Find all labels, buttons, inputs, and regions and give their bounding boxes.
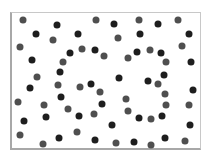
dot [50, 37, 57, 44]
dot [17, 132, 24, 139]
dot [187, 122, 194, 129]
dot [34, 74, 41, 81]
dot [27, 85, 34, 92]
dot [148, 116, 155, 123]
dot [40, 141, 47, 148]
dot [55, 82, 62, 89]
dot [175, 17, 182, 24]
dot [77, 84, 84, 91]
dot [190, 87, 197, 94]
dot [111, 21, 118, 28]
dot [155, 81, 162, 88]
dot [93, 17, 100, 24]
dot [148, 142, 155, 149]
dot [179, 43, 186, 50]
dot [57, 69, 64, 76]
dot [101, 53, 108, 60]
dot [145, 78, 152, 85]
dot [136, 17, 143, 24]
dot [92, 47, 99, 54]
dot [60, 59, 67, 66]
dot [67, 50, 74, 57]
dot [91, 111, 98, 118]
dot [33, 31, 40, 38]
dot [136, 115, 143, 122]
dot [125, 55, 132, 62]
dot [97, 89, 104, 96]
dot [115, 35, 122, 42]
dot [54, 22, 61, 29]
dot [75, 31, 82, 38]
dot [125, 108, 132, 115]
dot [147, 47, 154, 54]
dot [116, 75, 123, 82]
dot [186, 102, 193, 109]
dot [155, 21, 162, 28]
dot [188, 59, 195, 66]
dot [123, 96, 130, 103]
dot [162, 135, 169, 142]
dot [58, 94, 65, 101]
dot [15, 99, 22, 106]
dot [137, 31, 144, 38]
dot [29, 57, 36, 64]
dot [158, 50, 165, 57]
dot [163, 59, 170, 66]
dot [99, 101, 106, 108]
dot [134, 49, 141, 56]
dot [21, 118, 28, 125]
dot [41, 102, 48, 109]
dot [92, 137, 99, 144]
dot [79, 46, 86, 53]
dot [159, 113, 166, 120]
dot [182, 138, 189, 145]
dot [20, 17, 27, 24]
dot [161, 72, 168, 79]
dot [113, 140, 120, 147]
dot [186, 31, 193, 38]
dot [162, 91, 169, 98]
dot [109, 122, 116, 129]
dot [131, 139, 138, 146]
dot [88, 81, 95, 88]
dot [163, 102, 170, 109]
dot [56, 135, 63, 142]
dot [65, 106, 72, 113]
dot [17, 44, 24, 51]
dot [43, 114, 50, 121]
dot [74, 129, 81, 136]
dot [76, 113, 83, 120]
